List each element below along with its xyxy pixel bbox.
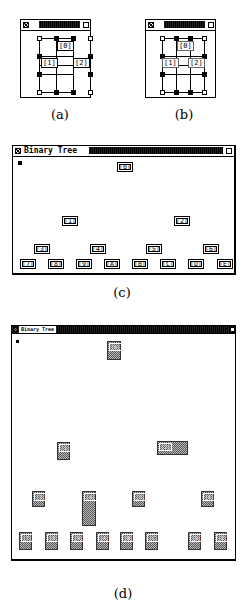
tree-node-0[interactable]: [0] [117,162,133,172]
caption-c: (c) [102,285,142,300]
resize-handle[interactable] [37,36,42,41]
zoom-box-icon[interactable] [230,327,235,332]
tree-node-6[interactable]: [6] [201,491,214,507]
resize-handle[interactable] [37,72,42,77]
tree-node-9[interactable]: [9] [70,532,83,550]
window-a-titlebar[interactable] [21,20,90,31]
resize-handle[interactable] [160,90,165,95]
node-label-2[interactable]: [2] [188,58,205,68]
tree-node-1[interactable]: [1] [62,216,78,226]
window-a: [0] [1] [2] [20,19,91,98]
tree-node-1[interactable]: [1] [57,442,70,460]
resize-handle[interactable] [202,90,207,95]
window-c-titlebar[interactable]: Binary Tree [13,146,234,157]
tree-node-4[interactable]: [4] [82,491,96,526]
window-title: Binary Tree [24,146,77,156]
close-box-icon[interactable] [148,22,154,28]
tree-node-4[interactable]: [4] [90,244,106,254]
caption-a: (a) [40,107,80,122]
caption-d: (d) [103,586,143,601]
tree-node-0[interactable]: [0] [107,341,121,360]
tree-node-6[interactable]: [6] [203,244,219,254]
tree-node-8[interactable]: [8] [45,532,58,550]
caption-b: (b) [164,107,204,122]
title-stripe [164,21,205,28]
node-label-0[interactable]: [0] [57,41,74,51]
tree-node-C[interactable]: [C] [160,259,176,269]
grow-handle-icon[interactable] [16,340,19,343]
window-c: Binary Tree [0] [1] [2] [3] [4] [5] [6] … [12,145,236,275]
grid-line [162,74,204,75]
tree-node-7[interactable]: [7] [20,259,36,269]
resize-handle[interactable] [71,90,76,95]
resize-handle[interactable] [160,36,165,41]
grid-line [162,56,204,57]
tree-node-E[interactable]: [E] [217,259,233,269]
tree-node-A[interactable]: [A] [96,532,109,550]
zoom-box-icon[interactable] [226,148,232,154]
close-box-icon[interactable] [13,327,18,332]
zoom-box-icon[interactable] [208,22,214,28]
window-d-titlebar[interactable]: Binary Tree [12,326,235,334]
tree-node-E[interactable]: [E] [214,532,227,550]
zoom-box-icon[interactable] [83,22,89,28]
node-label-0[interactable]: [0] [177,41,194,51]
tree-node-B[interactable]: [B] [120,532,133,550]
tree-node-7[interactable]: [7] [19,532,32,550]
grid-line [90,38,91,93]
title-stripe [39,21,80,28]
node-label-2[interactable]: [2] [73,58,90,68]
window-b: [0] [1] [2] [145,19,216,98]
tree-node-D[interactable]: [D] [188,259,204,269]
title-stripe [89,147,223,154]
tree-node-C[interactable]: [C] [145,532,158,550]
tree-node-2[interactable]: [2] [157,441,188,455]
grid-line [162,38,204,39]
resize-handle[interactable] [88,72,93,77]
tree-node-3[interactable]: [3] [34,244,50,254]
tree-node-2[interactable]: [2] [174,216,190,226]
resize-handle[interactable] [174,90,179,95]
resize-handle[interactable] [37,90,42,95]
node-label-1[interactable]: [1] [162,58,179,68]
resize-handle[interactable] [188,90,193,95]
grid-line [162,92,204,93]
close-box-icon[interactable] [15,148,21,154]
window-title: Binary Tree [19,326,56,333]
resize-handle[interactable] [88,36,93,41]
tree-node-5[interactable]: [5] [146,244,162,254]
resize-handle[interactable] [88,90,93,95]
tree-node-8[interactable]: [8] [48,259,64,269]
window-b-titlebar[interactable] [146,20,215,31]
grid-line [39,38,40,93]
tree-node-D[interactable]: [D] [188,532,201,550]
grow-handle-icon[interactable] [18,161,22,165]
window-d: Binary Tree [0] [1] [2] [3] [4] [5] [6] … [11,325,236,561]
tree-node-3[interactable]: [3] [32,491,45,507]
node-label-1[interactable]: [1] [41,58,58,68]
close-box-icon[interactable] [23,22,29,28]
tree-node-5[interactable]: [5] [132,491,145,507]
tree-node-9[interactable]: [9] [76,259,92,269]
tree-node-B[interactable]: [B] [132,259,148,269]
resize-handle[interactable] [54,90,59,95]
resize-handle[interactable] [160,72,165,77]
resize-handle[interactable] [202,72,207,77]
tree-node-A[interactable]: [A] [104,259,120,269]
resize-handle[interactable] [202,36,207,41]
